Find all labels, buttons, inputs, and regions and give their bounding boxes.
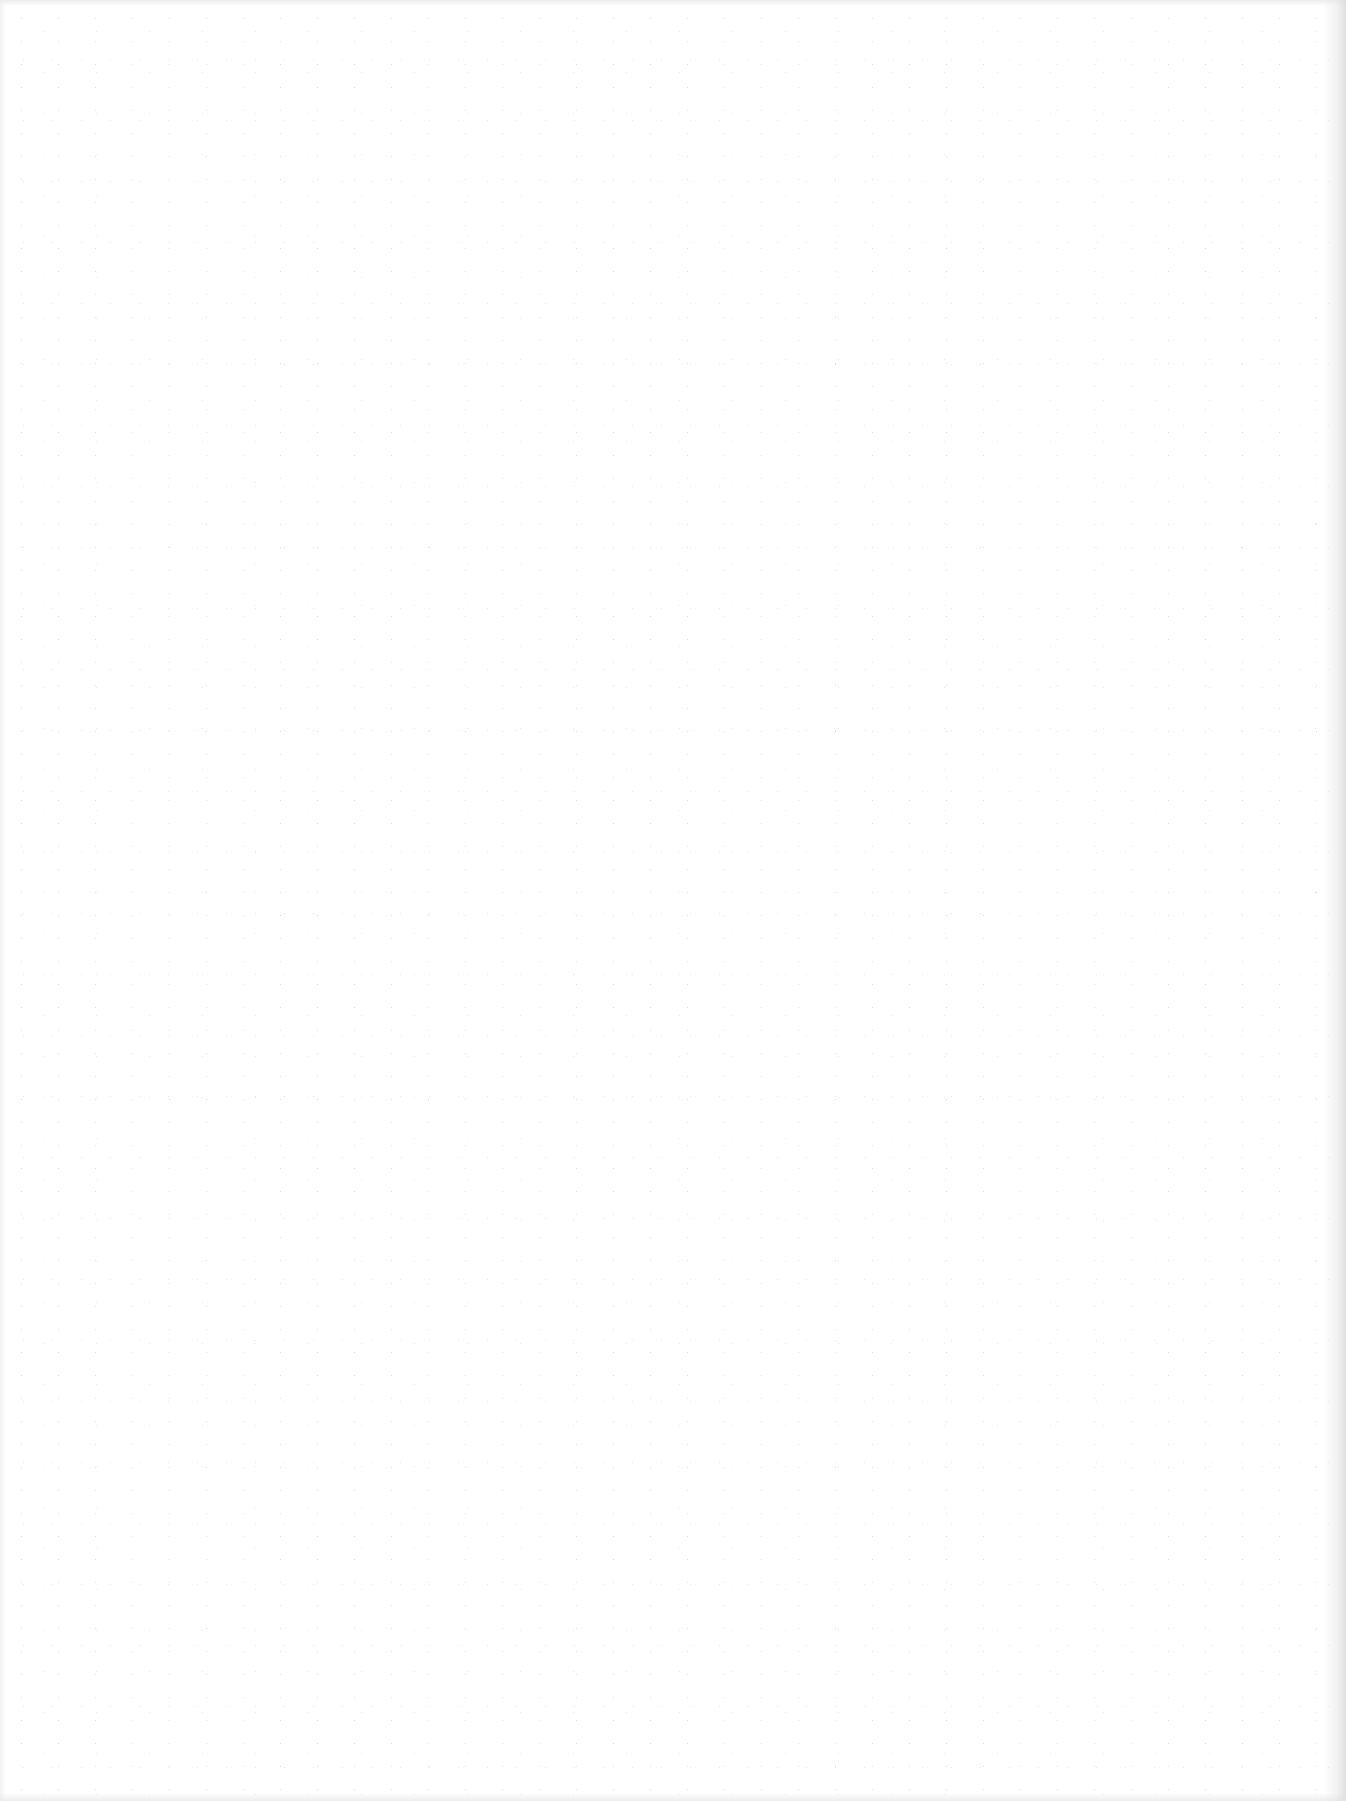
- scan-noise: [0, 0, 1346, 1801]
- page-edge-left: [0, 0, 6, 1801]
- blank-page: [0, 0, 1346, 1801]
- page-edge-top: [0, 0, 1346, 6]
- page-edge-right: [1324, 0, 1346, 1801]
- page-edge-bottom: [0, 1793, 1346, 1801]
